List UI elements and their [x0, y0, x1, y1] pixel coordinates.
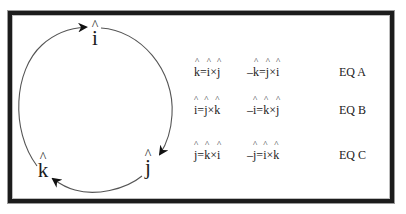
equation-negative: –^k=^j×^i	[247, 65, 279, 80]
equation-negative: –^j=^i×^k	[247, 148, 279, 163]
equation-row-a: ^k=^i×^j –^k=^j×^i EQ A	[194, 65, 354, 85]
arc-k-to-i	[19, 27, 86, 166]
arc-i-to-j	[101, 28, 172, 154]
equation-row-c: ^j=^k×^i –^j=^i×^k EQ C	[194, 148, 354, 168]
node-k: ^ k	[36, 160, 50, 181]
arc-j-to-k	[53, 176, 142, 192]
equation-label: EQ B	[339, 103, 366, 118]
equation-label: EQ A	[339, 65, 366, 80]
hat-icon: ^	[141, 148, 155, 162]
equation-positive: ^j=^k×^i	[194, 148, 220, 163]
hat-icon: ^	[88, 19, 102, 33]
equation-label: EQ C	[339, 148, 366, 163]
hat-icon: ^	[36, 151, 50, 165]
equation-positive: ^i=^j×^k	[194, 103, 220, 118]
equation-positive: ^k=^i×^j	[194, 65, 220, 80]
equation-negative: –^i=^k×^j	[247, 103, 279, 118]
node-j: ^ j	[141, 157, 155, 178]
equation-row-b: ^i=^j×^k –^i=^k×^j EQ B	[194, 103, 354, 123]
node-i: ^ i	[88, 28, 102, 49]
